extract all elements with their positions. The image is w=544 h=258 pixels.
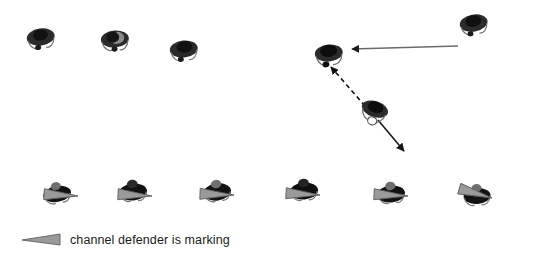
- cone-marker-4: [286, 187, 321, 201]
- ball-carrier: [351, 92, 396, 132]
- cone-marker-3: [200, 188, 234, 201]
- run-arrow-left: [352, 46, 458, 49]
- cone-marker-1: [44, 188, 79, 202]
- attacker-4: [453, 7, 496, 43]
- channel-defender: [309, 38, 350, 72]
- diagram-canvas: channel defender is marking: [0, 0, 544, 258]
- cone-marker-2: [118, 188, 153, 202]
- attacker-3: [164, 34, 205, 68]
- legend: channel defender is marking: [22, 233, 230, 247]
- cone-marker-5: [374, 188, 409, 202]
- legend-label: channel defender is marking: [70, 233, 230, 247]
- attacker-1: [20, 22, 62, 57]
- cone-marker-icon: [22, 233, 60, 247]
- attacker-2: [95, 25, 135, 58]
